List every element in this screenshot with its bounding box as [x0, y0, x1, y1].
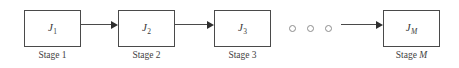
arrow-head-icon [376, 21, 383, 29]
stage-box-stage-m: JM [383, 10, 440, 47]
label-base: J [406, 21, 411, 33]
stage-caption-stage-1: Stage 1 [24, 51, 81, 61]
ellipsis-dot-icon [289, 25, 296, 32]
flow-arrow [81, 20, 118, 29]
caption-text: Stage [132, 50, 155, 60]
stage-box-stage-1: J1 [24, 10, 81, 47]
process-flow-diagram: J1Stage 1J2Stage 2J3Stage 3JMStage M [0, 0, 459, 68]
flow-arrow [175, 20, 214, 29]
label-subscript: 1 [53, 27, 57, 36]
stage-box-label: J1 [48, 22, 57, 35]
arrow-shaft [341, 24, 376, 25]
caption-index: M [419, 50, 427, 60]
stage-box-label: J3 [238, 22, 247, 35]
stage-box-stage-2: J2 [118, 10, 175, 47]
stage-box-label: JM [406, 22, 417, 35]
flow-arrow [341, 20, 383, 29]
arrow-head-icon [207, 21, 214, 29]
arrow-head-icon [111, 21, 118, 29]
caption-index: 1 [62, 50, 67, 60]
label-subscript: 2 [147, 27, 151, 36]
caption-text: Stage [396, 50, 419, 60]
caption-text: Stage [38, 50, 61, 60]
caption-index: 2 [156, 50, 161, 60]
arrow-shaft [81, 24, 111, 25]
caption-text: Stage [228, 50, 251, 60]
label-subscript: M [411, 27, 417, 36]
stage-box-label: J2 [142, 22, 151, 35]
label-subscript: 3 [243, 27, 247, 36]
ellipsis-dot-icon [307, 25, 314, 32]
ellipsis-dot-icon [325, 25, 332, 32]
stage-box-stage-3: J3 [214, 10, 271, 47]
stage-caption-stage-m: Stage M [383, 51, 440, 61]
caption-index: 3 [252, 50, 257, 60]
arrow-shaft [175, 24, 207, 25]
stage-caption-stage-2: Stage 2 [118, 51, 175, 61]
stage-caption-stage-3: Stage 3 [214, 51, 271, 61]
